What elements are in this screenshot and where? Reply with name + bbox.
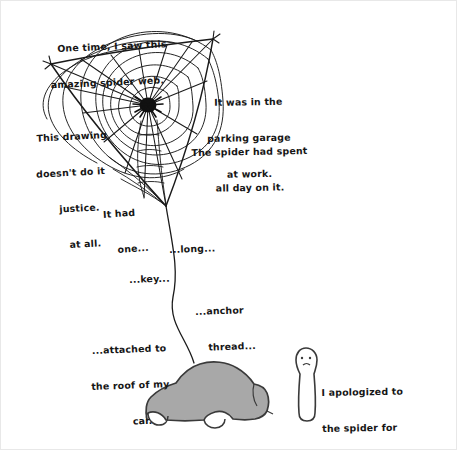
caption-attached-to-roof: ...attached to the roof of my car. [89, 318, 172, 450]
caption-intro-line-1: One time, I saw this [57, 38, 167, 55]
person-figure [296, 348, 317, 421]
caption-anchor-thread-line-2: thread... [208, 340, 256, 354]
caption-spider-effort-line-1: The spider had spent [191, 145, 307, 159]
caption-location-line-1: It was in the [206, 96, 290, 109]
caption-it-had-one-line-1: It had [103, 206, 147, 221]
comic-panel: One time, I saw this amazing spider web.… [0, 0, 457, 450]
caption-attached-line-1: ...attached to [90, 342, 168, 357]
caption-spider-effort-line-2: all day on it. [192, 181, 308, 195]
caption-anchor-thread-line-1: ...anchor [195, 304, 255, 318]
caption-intro-line-2: amazing spider web. [51, 74, 169, 91]
caption-key: ...key... [128, 249, 171, 311]
caption-anchor-thread: ...anchor thread... [194, 280, 257, 378]
caption-attached-line-3: car. [114, 414, 170, 428]
caption-apology: I apologized to the spider for having to… [321, 361, 452, 450]
caption-long-line-1: ...long... [169, 242, 216, 256]
caption-attached-line-2: the roof of my [91, 378, 169, 393]
caption-spider-effort: The spider had spent all day on it. [191, 121, 309, 219]
caption-disclaimer-line-2: doesn't do it [32, 165, 109, 181]
caption-key-line-1: ...key... [129, 273, 170, 286]
caption-apology-line-1: I apologized to [321, 385, 450, 399]
caption-long: ...long... [168, 218, 216, 280]
caption-disclaimer-line-1: This drawing [36, 129, 107, 145]
caption-apology-line-2: the spider for [322, 421, 451, 435]
caption-intro: One time, I saw this amazing spider web. [56, 14, 170, 115]
